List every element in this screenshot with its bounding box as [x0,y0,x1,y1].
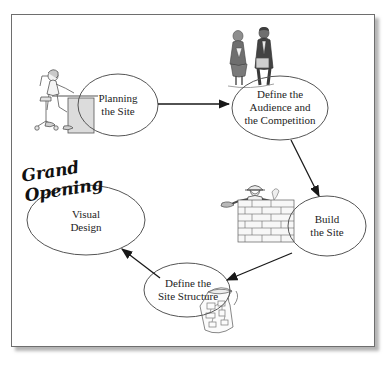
edge-build-to-structure [227,253,292,280]
node-define-audience[interactable] [232,76,328,140]
edge-structure-to-visual [122,249,160,278]
two-business-people-icon [228,27,274,88]
node-build-site[interactable] [288,196,366,256]
blueprint-scroll-icon [200,288,238,333]
edge-audience-to-build [291,140,319,196]
bricklayer-icon [221,186,294,243]
person-at-desk-icon [35,70,98,133]
diagram-canvas: Planning the Site Define the Audience an… [0,0,390,365]
